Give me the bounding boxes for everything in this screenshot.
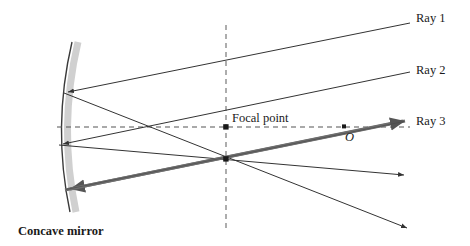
reflected-ray-from-point-2 [59, 145, 404, 175]
point-o-marker [342, 124, 346, 128]
center-point-label: O [345, 130, 354, 144]
ray-2-label: Ray 2 [416, 63, 446, 77]
incoming-ray-1 [68, 23, 410, 92]
ray-1-label: Ray 1 [416, 11, 446, 25]
convergence-point-marker [223, 156, 228, 161]
ray-diagram-canvas: Ray 1 Ray 2 Ray 3 Focal point O Concave … [0, 0, 470, 246]
concave-mirror-label: Concave mirror [18, 224, 104, 238]
concave-mirror-figure: Ray 1 Ray 2 Ray 3 Focal point O Concave … [0, 0, 470, 246]
ray-3-label: Ray 3 [416, 114, 446, 128]
focal-point-label: Focal point [232, 111, 289, 125]
focal-point-marker [223, 124, 228, 129]
